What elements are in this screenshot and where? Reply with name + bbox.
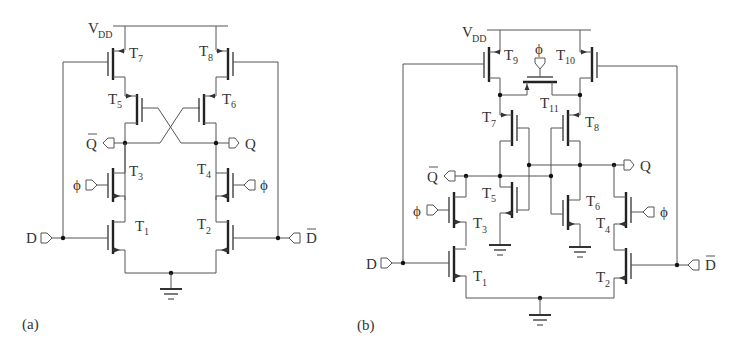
d-terminal-a bbox=[41, 233, 52, 243]
qbar-label-b: Q bbox=[427, 169, 438, 185]
vdd-sub-a: DD bbox=[98, 29, 112, 40]
svg-text:DD: DD bbox=[472, 33, 486, 44]
q-node-a bbox=[214, 141, 218, 145]
svg-text:8: 8 bbox=[594, 122, 599, 133]
label-t9-b: T bbox=[504, 47, 513, 63]
label-t11-b: T bbox=[540, 95, 549, 111]
svg-text:2: 2 bbox=[206, 225, 211, 236]
svg-text:1: 1 bbox=[144, 226, 149, 237]
dbar-label-a: D bbox=[306, 230, 317, 246]
caption-b: (b) bbox=[357, 317, 375, 334]
phi-left-label-a: ϕ bbox=[73, 177, 81, 193]
label-t1-a: T bbox=[135, 218, 144, 234]
qbar-terminal-b bbox=[444, 171, 455, 181]
label-t7-b: T bbox=[482, 109, 491, 125]
dbar-node-a bbox=[276, 236, 280, 240]
phi-right-label-b: ϕ bbox=[660, 204, 668, 220]
q-label-b: Q bbox=[640, 158, 651, 174]
d-label-b: D bbox=[366, 256, 377, 272]
qbar-label-a: Q bbox=[86, 136, 97, 152]
panel-b-schematic: V DD T 9 T 10 bbox=[357, 24, 716, 334]
panel-a-schematic: V DD T 7 T 5 Q bbox=[22, 20, 317, 333]
svg-text:10: 10 bbox=[565, 55, 575, 66]
label-t5-b: T bbox=[482, 185, 491, 201]
label-t4-b: T bbox=[596, 215, 605, 231]
svg-text:1: 1 bbox=[482, 277, 487, 288]
dbar-label-b: D bbox=[705, 257, 716, 273]
svg-text:9: 9 bbox=[513, 55, 518, 66]
phi-right-terminal-b bbox=[643, 207, 654, 217]
label-t4-a: T bbox=[197, 161, 206, 177]
phi-top-terminal-b bbox=[535, 58, 545, 69]
dbar-terminal-a bbox=[289, 233, 300, 243]
d-label-a: D bbox=[26, 230, 37, 246]
qbar-terminal-a bbox=[103, 138, 114, 148]
svg-text:3: 3 bbox=[482, 224, 487, 235]
ground-icon-t6-b bbox=[569, 247, 591, 257]
label-t2-a: T bbox=[197, 216, 206, 232]
svg-text:6: 6 bbox=[595, 201, 600, 212]
svg-text:4: 4 bbox=[605, 224, 610, 235]
phi-left-label-b: ϕ bbox=[413, 203, 421, 219]
d-node-a bbox=[61, 236, 65, 240]
ground-icon-b bbox=[529, 315, 551, 325]
phi-right-terminal-a bbox=[244, 180, 255, 190]
label-t10-b: T bbox=[556, 47, 565, 63]
svg-text:2: 2 bbox=[605, 278, 610, 289]
phi-left-terminal-a bbox=[86, 180, 97, 190]
svg-text:5: 5 bbox=[117, 99, 122, 110]
q-terminal-a bbox=[229, 138, 239, 148]
label-t7-a: T bbox=[129, 45, 138, 61]
label-t1-b: T bbox=[473, 268, 482, 284]
label-t3-b: T bbox=[473, 215, 482, 231]
svg-text:7: 7 bbox=[491, 118, 496, 129]
svg-text:3: 3 bbox=[138, 171, 143, 182]
label-t6-b: T bbox=[586, 193, 595, 209]
label-t8-a: T bbox=[199, 43, 208, 59]
label-t5-a: T bbox=[108, 91, 117, 107]
label-t3-a: T bbox=[129, 163, 138, 179]
ground-icon-t5-b bbox=[489, 245, 511, 255]
phi-top-label-b: ϕ bbox=[535, 41, 543, 57]
phi-left-terminal-b bbox=[427, 205, 438, 215]
label-t6-a: T bbox=[222, 91, 231, 107]
q-label-a: Q bbox=[245, 136, 256, 152]
svg-text:4: 4 bbox=[206, 169, 211, 180]
label-t8-b: T bbox=[585, 114, 594, 130]
svg-text:5: 5 bbox=[491, 193, 496, 204]
svg-text:11: 11 bbox=[549, 103, 559, 114]
label-t2-b: T bbox=[596, 269, 605, 285]
phi-right-label-a: ϕ bbox=[260, 177, 268, 193]
svg-text:8: 8 bbox=[208, 52, 213, 63]
dbar-terminal-b bbox=[688, 260, 699, 270]
d-terminal-b bbox=[381, 258, 392, 268]
svg-text:7: 7 bbox=[138, 53, 143, 64]
circuit-figure: V DD T 7 T 5 Q bbox=[0, 0, 733, 349]
svg-text:6: 6 bbox=[231, 99, 236, 110]
ground-icon-a bbox=[160, 289, 182, 299]
caption-a: (a) bbox=[22, 316, 39, 333]
q-terminal-b bbox=[624, 160, 634, 170]
